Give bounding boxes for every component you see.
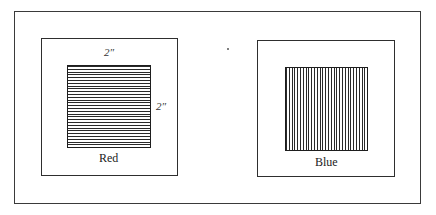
print-speck <box>227 48 229 50</box>
red-width-dimension: 2″ <box>104 46 114 58</box>
blue-label: Blue <box>315 155 338 170</box>
red-height-dimension: 2″ <box>156 100 166 112</box>
blue-swatch-vertical-hatch <box>285 67 368 151</box>
red-label: Red <box>99 151 118 166</box>
red-swatch-horizontal-hatch <box>67 65 151 148</box>
